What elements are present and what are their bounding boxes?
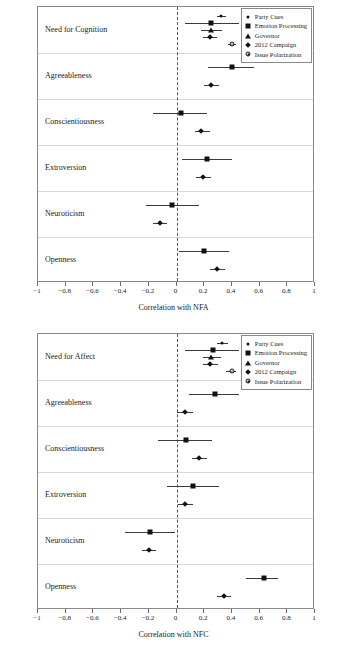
legend-item: 2012 Campaign [245,367,307,376]
open-circle-marker-icon [245,378,252,385]
diamond-marker-icon [245,41,252,48]
x-axis-tick-label: 0.4 [227,614,236,622]
group-label: Need for Affect [45,352,95,361]
group-label: Agreeableness [45,398,92,407]
data-point-diamond [146,547,152,553]
marker-glyph [245,360,251,365]
x-axis-tick [286,609,287,613]
data-point-diamond [208,82,214,88]
legend-item-label: 2012 Campaign [255,367,296,376]
x-axis-tick [148,282,149,286]
dot-marker-icon [245,340,252,347]
group-label: Agreeableness [45,71,92,80]
data-point-diamond [221,593,227,599]
legend: Party CuesEmotion ProcessingGovernor2012… [241,335,312,390]
x-axis-label: Correlation with NFA [0,303,347,312]
x-axis-tick-label: 0.6 [254,614,263,622]
legend-item-label: Issue Polarization [255,50,301,59]
group-gridline [38,472,313,473]
plot-area: Need for CognitionAgreeablenessConscient… [37,6,314,282]
data-point-open-circle [229,369,234,374]
diamond-marker-icon [245,368,252,375]
x-axis-tick [203,282,204,286]
zero-reference-line [177,334,178,608]
data-point-diamond [200,174,206,180]
group-label: Need for Cognition [45,25,107,34]
legend-item: Governor [245,358,307,367]
x-axis-tick-label: −0.6 [86,287,99,295]
x-axis-tick [259,609,260,613]
square-marker-icon [245,350,252,357]
group-gridline [38,518,313,519]
data-point-square [229,65,234,70]
zero-reference-line [177,7,178,281]
x-axis: −1−0.8−0.6−0.4−0.200.20.40.60.81 [37,282,314,283]
marker-glyph [246,52,251,57]
legend-item-label: Governor [255,31,280,40]
x-axis-tick [259,282,260,286]
x-axis-tick [120,609,121,613]
data-point-square [209,20,214,25]
data-point-diamond [199,128,205,134]
x-axis-tick [203,609,204,613]
data-point-square [191,484,196,489]
x-axis-tick-label: 0.4 [227,287,236,295]
marker-glyph [247,342,250,345]
group-gridline [38,237,313,238]
x-axis-tick-label: −0.8 [58,287,71,295]
group-label: Neuroticism [45,536,85,545]
x-axis-tick-label: −0.4 [114,287,127,295]
legend-item: 2012 Campaign [245,40,307,49]
marker-glyph [246,351,251,356]
legend-item-label: Emotion Processing [255,348,307,357]
x-axis-tick-label: −0.2 [141,287,154,295]
x-axis-tick [92,282,93,286]
legend-item-label: Issue Polarization [255,377,301,386]
x-axis-tick [37,609,38,613]
legend-item: Party Cues [245,339,307,348]
legend-item: Governor [245,31,307,40]
chart-panel-nfc: Personality Trait Variable Need for Affe… [0,327,347,654]
x-axis-tick [65,609,66,613]
marker-glyph [245,33,251,38]
data-point-diamond [157,220,163,226]
group-label: Conscientiousness [45,444,104,453]
group-label: Openness [45,255,76,264]
group-label: Extroversion [45,490,86,499]
group-gridline [38,191,313,192]
marker-glyph [245,42,251,48]
data-point-triangle [208,28,214,33]
x-axis-label: Correlation with NFC [0,630,347,639]
data-point-dot [219,14,222,17]
legend-item: Emotion Processing [245,21,307,30]
x-axis-tick-label: 0.2 [199,614,208,622]
group-label: Neuroticism [45,209,85,218]
legend-item: Issue Polarization [245,377,307,386]
x-axis-tick [231,609,232,613]
data-point-diamond [214,266,220,272]
legend-item-label: Governor [255,358,280,367]
triangle-marker-icon [245,359,252,366]
x-axis-tick [286,282,287,286]
x-axis-tick [231,282,232,286]
legend-item-label: Party Cues [255,339,283,348]
legend-item: Party Cues [245,12,307,21]
x-axis-tick [148,609,149,613]
x-axis-tick-label: −0.2 [141,614,154,622]
data-point-diamond [207,34,213,40]
legend-item: Emotion Processing [245,348,307,357]
x-axis-tick-label: 1 [312,614,316,622]
data-point-square [170,203,175,208]
marker-glyph [246,379,251,384]
group-gridline [38,99,313,100]
marker-glyph [245,369,251,375]
data-point-diamond [207,361,213,367]
data-point-triangle [208,355,214,360]
data-point-diamond [182,409,188,415]
x-axis-tick-label: 0 [174,614,178,622]
x-axis: −1−0.8−0.6−0.4−0.200.20.40.60.81 [37,609,314,610]
group-label: Extroversion [45,163,86,172]
data-point-square [202,249,207,254]
data-point-dot [221,341,224,344]
x-axis-tick-label: −1 [33,287,40,295]
